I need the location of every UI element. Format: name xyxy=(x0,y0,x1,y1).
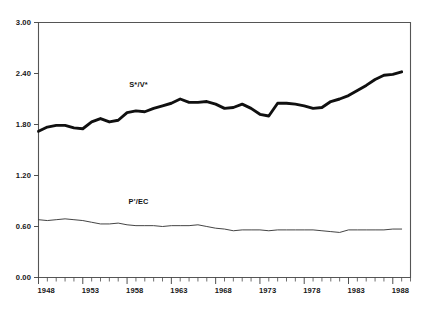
x-tick-label: 1953 xyxy=(82,286,99,295)
x-tick-label: 1958 xyxy=(126,286,143,295)
x-tick-label: 1978 xyxy=(303,286,320,295)
y-tick-label: 0.00 xyxy=(16,273,31,282)
line-chart: 0.000.601.201.802.403.00 194819531958196… xyxy=(0,0,428,311)
y-tick-label: 3.00 xyxy=(16,18,31,27)
x-tick-label: 1973 xyxy=(259,286,276,295)
y-tick-label: 1.20 xyxy=(16,171,31,180)
axis-box xyxy=(39,23,411,278)
y-tick-label: 0.60 xyxy=(16,222,31,231)
y-tick-label: 2.40 xyxy=(16,69,31,78)
series-line xyxy=(39,72,402,132)
y-axis-ticks xyxy=(34,23,39,278)
chart-figure: 0.000.601.201.802.403.00 194819531958196… xyxy=(0,0,428,311)
y-tick-label: 1.80 xyxy=(16,120,31,129)
x-axis-ticks xyxy=(39,278,411,285)
x-tick-label: 1988 xyxy=(392,286,409,295)
x-tick-label: 1983 xyxy=(348,286,365,295)
series-line xyxy=(39,219,402,233)
series-label: P'/EC xyxy=(129,197,149,206)
x-tick-label: 1963 xyxy=(170,286,187,295)
series-lines xyxy=(39,72,402,233)
y-axis-tick-labels: 0.000.601.201.802.403.00 xyxy=(16,18,31,282)
series-label: S*/V* xyxy=(129,80,148,89)
x-tick-label: 1948 xyxy=(38,286,55,295)
series-annotations: S*/V*P'/EC xyxy=(129,80,149,206)
plot-frame xyxy=(39,23,411,278)
x-tick-label: 1968 xyxy=(215,286,232,295)
x-axis-tick-labels: 194819531958196319681973197819831988 xyxy=(38,286,410,295)
